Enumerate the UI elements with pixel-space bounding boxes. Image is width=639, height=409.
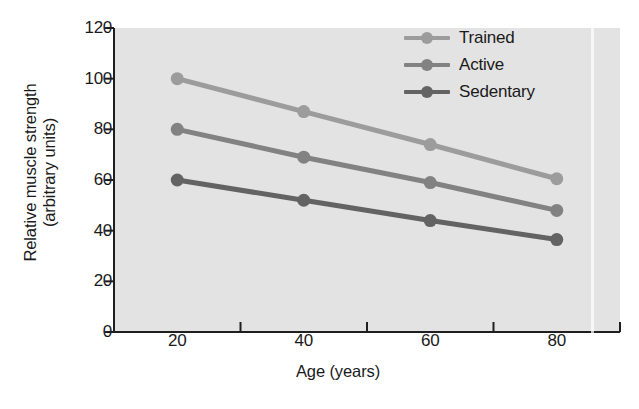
legend-item-active: Active — [404, 51, 604, 78]
x-axis-tick-labels: 20 40 60 80 — [0, 331, 639, 357]
muscle-strength-line-chart: Relative muscle strength (arbitrary unit… — [0, 0, 639, 409]
x-tick-label: 60 — [400, 331, 460, 351]
x-tick-label: 40 — [274, 331, 334, 351]
legend-swatch-trained — [404, 31, 450, 45]
legend-item-trained: Trained — [404, 24, 604, 51]
legend-swatch-active — [404, 58, 450, 72]
legend-label-active: Active — [459, 55, 504, 75]
x-axis-title: Age (years) — [118, 362, 558, 381]
x-tick-label: 80 — [527, 331, 587, 351]
x-tick-label: 20 — [147, 331, 207, 351]
legend-swatch-sedentary — [404, 85, 450, 99]
legend-label-trained: Trained — [459, 28, 515, 48]
legend-item-sedentary: Sedentary — [404, 78, 604, 105]
legend-label-sedentary: Sedentary — [459, 82, 535, 102]
chart-legend: Trained Active Sedentary — [404, 24, 604, 105]
